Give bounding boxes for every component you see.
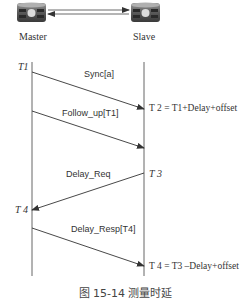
sync-label: Sync[a] <box>84 70 114 79</box>
t1-label: T1 <box>18 62 29 72</box>
delay-resp-label: Delay_Resp[T4] <box>71 225 136 234</box>
t2-label: T 2 = T1+Delay+offset <box>149 104 237 114</box>
slave-router-icon <box>131 3 160 23</box>
slave-label: Slave <box>133 32 155 42</box>
t4-slave-label: T 4 = T3 –Delay+offset <box>149 262 239 272</box>
master-router-icon <box>17 3 46 23</box>
t3-label: T 3 <box>149 169 162 179</box>
master-label: Master <box>19 32 47 42</box>
t4-master-label: T 4 <box>15 205 28 215</box>
diagram-canvas <box>0 0 251 303</box>
follow-up-label: Follow_up[T1] <box>62 109 119 118</box>
delay-req-label: Delay_Req <box>66 170 111 179</box>
figure-caption: 图 15-14 测量时延 <box>0 284 251 300</box>
